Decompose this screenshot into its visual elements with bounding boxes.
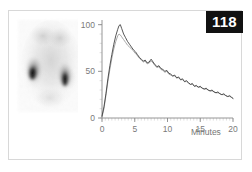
y-tick-label: 0: [90, 113, 95, 123]
x-tick-label: 0: [100, 124, 105, 134]
y-tick-label: 100: [81, 20, 95, 30]
scan-noise: [18, 20, 84, 112]
x-tick-label: 5: [132, 124, 137, 134]
x-axis-label: Minutes: [191, 127, 221, 137]
x-tick-label: 10: [163, 124, 173, 134]
y-tick-label: 50: [86, 66, 96, 76]
x-tick-label: 20: [228, 124, 238, 134]
figure-number-badge: 118: [206, 11, 243, 33]
figure-container: 050100 05101520 Minutes 118: [0, 0, 252, 172]
